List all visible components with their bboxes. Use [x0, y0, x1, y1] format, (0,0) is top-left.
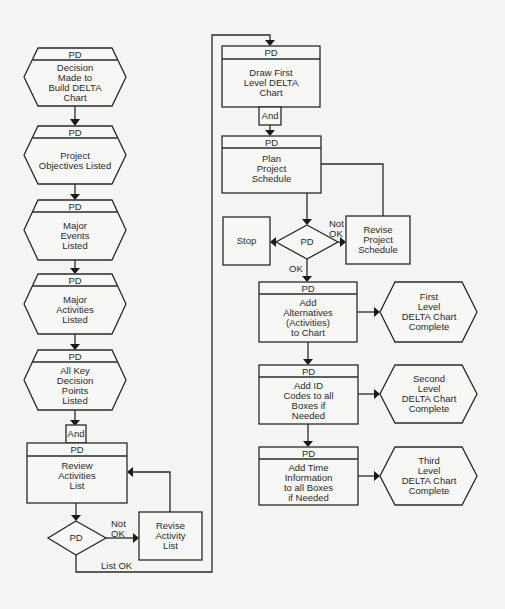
stop-text: Stop — [223, 217, 270, 265]
step2-header: PD — [259, 367, 358, 377]
step1-header: PD — [259, 284, 357, 294]
review-text: Review Activities List — [27, 458, 127, 494]
hex4-text: Major Activities Listed — [30, 287, 120, 333]
arrow-head — [70, 268, 80, 274]
feedback-line-left — [133, 472, 170, 512]
arrow-head — [127, 467, 133, 477]
hex2-header: PD — [38, 128, 112, 138]
and-label-left: And — [66, 429, 86, 439]
hex3-header: PD — [38, 202, 112, 212]
arrow-head — [303, 441, 313, 447]
step3-header: PD — [259, 449, 358, 459]
revise-schedule-text: Revise Project Schedule — [346, 216, 410, 264]
arrow-head — [374, 307, 380, 317]
hex1-header: PD — [38, 50, 112, 60]
arrow-head — [302, 276, 312, 282]
step2-result-text: Second Level DELTA Chart Complete — [383, 365, 475, 423]
decision-right-text: PD — [287, 237, 327, 247]
step3-result-text: Third Level DELTA Chart Complete — [383, 447, 475, 505]
step1-result-text: First Level DELTA Chart Complete — [383, 282, 475, 342]
and-label-right: And — [259, 111, 281, 121]
hex5-header: PD — [38, 352, 112, 362]
arrow-head — [70, 119, 80, 126]
arrow-head — [303, 359, 313, 365]
arrow-head — [70, 344, 80, 350]
step3-text: Add Time Information to all Boxes if Nee… — [259, 461, 358, 505]
arrow-head — [374, 471, 380, 481]
review-header: PD — [27, 445, 127, 455]
hex5-text: All Key Decision Points Listed — [30, 363, 120, 409]
hex2-text: Project Objectives Listed — [30, 139, 120, 183]
plan-header: PD — [222, 138, 321, 148]
hex3-text: Major Events Listed — [30, 213, 120, 259]
arrow-head — [71, 515, 81, 521]
ok-label-right: OK — [289, 264, 303, 274]
list-ok-label: List OK — [101, 561, 132, 571]
step1-text: Add Alternatives (Activities) to Chart — [259, 296, 357, 340]
hex1-text: Decision Made to Build DELTA Chart — [30, 61, 120, 105]
not-ok-label-left: Not OK — [111, 519, 126, 539]
revise-activity-text: Revise Activity List — [139, 512, 202, 560]
decision-left-text: PD — [56, 533, 96, 543]
arrow-head — [374, 389, 380, 399]
draw-header: PD — [222, 48, 320, 58]
arrow-head — [302, 219, 312, 225]
arrow-head — [70, 194, 80, 200]
step2-text: Add ID Codes to all Boxes if Needed — [259, 379, 358, 423]
arrow-head — [265, 40, 275, 46]
not-ok-label-right: Not OK — [329, 219, 344, 239]
draw-text: Draw First Level DELTA Chart — [222, 61, 320, 105]
arrow-head — [265, 130, 275, 136]
arrow-head — [270, 237, 276, 247]
hex4-header: PD — [38, 276, 112, 286]
plan-text: Plan Project Schedule — [222, 150, 321, 188]
feedback-line-right — [321, 164, 383, 216]
